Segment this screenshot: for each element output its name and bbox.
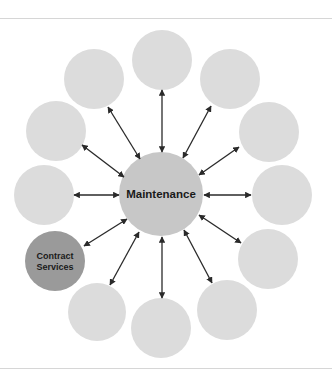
satellite-label-contract-services: Contract — [36, 251, 73, 261]
satellite-node-bottom — [131, 298, 191, 358]
satellite-node-left — [14, 165, 74, 225]
satellite-label-contract-services: Services — [36, 262, 73, 272]
satellite-node-right-lower — [238, 229, 298, 289]
satellite-node-upper-left — [64, 49, 124, 109]
bidirectional-arrow-icon-right-upper — [199, 147, 239, 175]
satellite-node-top — [132, 30, 192, 90]
hub-label: Maintenance — [126, 188, 196, 200]
satellite-node-left-upper — [26, 101, 86, 161]
bidirectional-arrow-icon-lower-right — [184, 230, 212, 283]
satellite-node-upper-right — [200, 49, 260, 109]
bidirectional-arrow-icon-left-upper — [82, 145, 124, 177]
bidirectional-arrow-icon-contract-services — [84, 219, 127, 246]
bidirectional-arrow-icon-lower-left — [110, 232, 139, 285]
bidirectional-arrow-icon-right-lower — [199, 215, 241, 243]
satellite-node-right — [252, 165, 312, 225]
satellite-node-lower-left — [68, 283, 126, 341]
satellite-node-right-upper — [239, 102, 299, 162]
bidirectional-arrow-icon-upper-right — [183, 106, 211, 158]
satellite-node-lower-right — [197, 280, 257, 340]
hub-spoke-diagram: ContractServicesMaintenance — [0, 0, 332, 376]
bidirectional-arrow-icon-upper-left — [108, 107, 140, 159]
